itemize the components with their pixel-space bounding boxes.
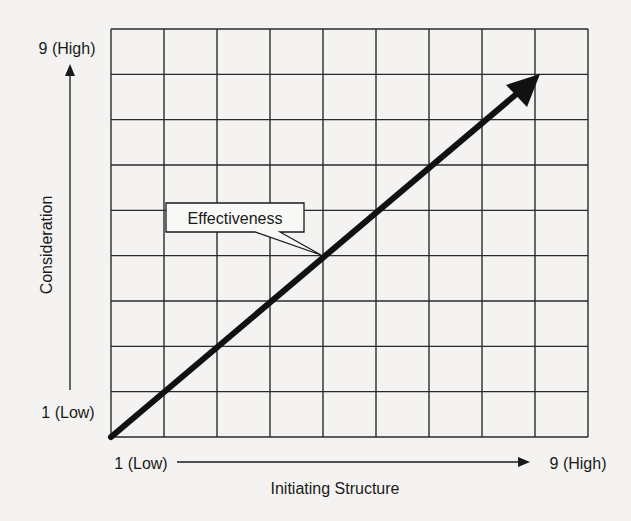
effectiveness-grid-diagram: Effectiveness 9 (High) Consideration 1 (…	[0, 0, 631, 521]
x-axis: 1 (Low) 9 (High) Initiating Structure	[114, 455, 606, 497]
y-axis-arrow-up-icon	[65, 64, 75, 76]
effectiveness-callout: Effectiveness	[166, 203, 321, 255]
y-axis-low-label: 1 (Low)	[41, 404, 94, 421]
callout-label: Effectiveness	[188, 210, 283, 227]
y-axis-high-label: 9 (High)	[39, 40, 96, 57]
y-axis: 9 (High) Consideration 1 (Low)	[38, 40, 95, 421]
x-axis-title: Initiating Structure	[271, 480, 400, 497]
y-axis-title: Consideration	[38, 196, 55, 295]
x-axis-high-label: 9 (High)	[550, 455, 607, 472]
x-axis-arrow-right-icon	[518, 457, 530, 467]
x-axis-low-label: 1 (Low)	[114, 455, 167, 472]
